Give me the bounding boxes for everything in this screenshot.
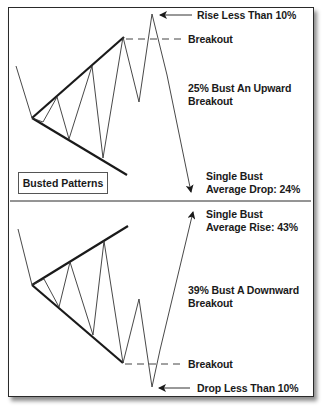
- price-path: [18, 229, 160, 387]
- rise-arrow: [160, 212, 193, 350]
- average-drop-label: Average Drop: 24%: [206, 183, 300, 196]
- upper-trendline: [32, 37, 124, 118]
- price-path: [16, 14, 167, 158]
- upper-trendline: [32, 226, 128, 285]
- top-panel-chart: [16, 14, 192, 192]
- bottom-bust-percent-label: 39% Bust A Downward: [188, 284, 299, 297]
- bottom-panel-chart: [18, 212, 193, 388]
- bottom-bust-percent-label-2: Breakout: [188, 297, 233, 310]
- lower-trendline: [32, 118, 127, 175]
- rise-less-label: Rise Less Than 10%: [197, 9, 296, 22]
- single-bust-rise-label: Single Bust: [206, 208, 263, 221]
- top-breakout-label: Breakout: [188, 33, 233, 46]
- top-bust-percent-label: 25% Bust An Upward: [188, 82, 291, 95]
- average-rise-label: Average Rise: 43%: [206, 221, 298, 234]
- drop-less-label: Drop Less Than 10%: [197, 382, 298, 395]
- lower-trendline: [32, 285, 123, 363]
- top-bust-percent-label-2: Breakout: [188, 95, 233, 108]
- bottom-breakout-label: Breakout: [188, 358, 233, 371]
- busted-patterns-title-box: Busted Patterns: [18, 172, 108, 194]
- busted-broadening-pattern-diagram: [0, 0, 323, 410]
- single-bust-drop-label: Single Bust: [206, 170, 263, 183]
